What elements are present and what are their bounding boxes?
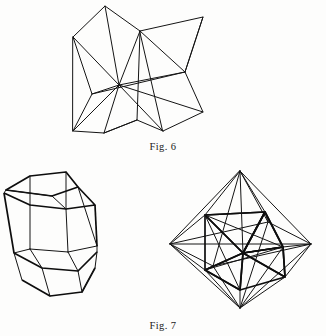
fig7-left-bottom-face (14, 252, 97, 296)
fig7-left-top-face (6, 172, 78, 196)
fig6-quad-a (73, 6, 140, 133)
figure-plate: Fig. 6 (0, 0, 326, 336)
fig7-left-polyhedron (0, 160, 160, 320)
fig6-hub-spokes (73, 6, 203, 133)
fig7-left-mid-ring (14, 246, 97, 271)
fig7-left-side-faces (4, 187, 97, 253)
fig6-quad-b (140, 17, 203, 131)
fig7-left-upper-band (4, 172, 95, 209)
hatched-face-upper-right (243, 212, 283, 253)
fig7-right-polyhedron (160, 160, 326, 320)
fig6-caption: Fig. 6 (0, 141, 326, 152)
fig7-caption: Fig. 7 (0, 320, 326, 331)
hatched-face-upper-left (205, 212, 265, 253)
fig6-illustration (0, 0, 326, 140)
